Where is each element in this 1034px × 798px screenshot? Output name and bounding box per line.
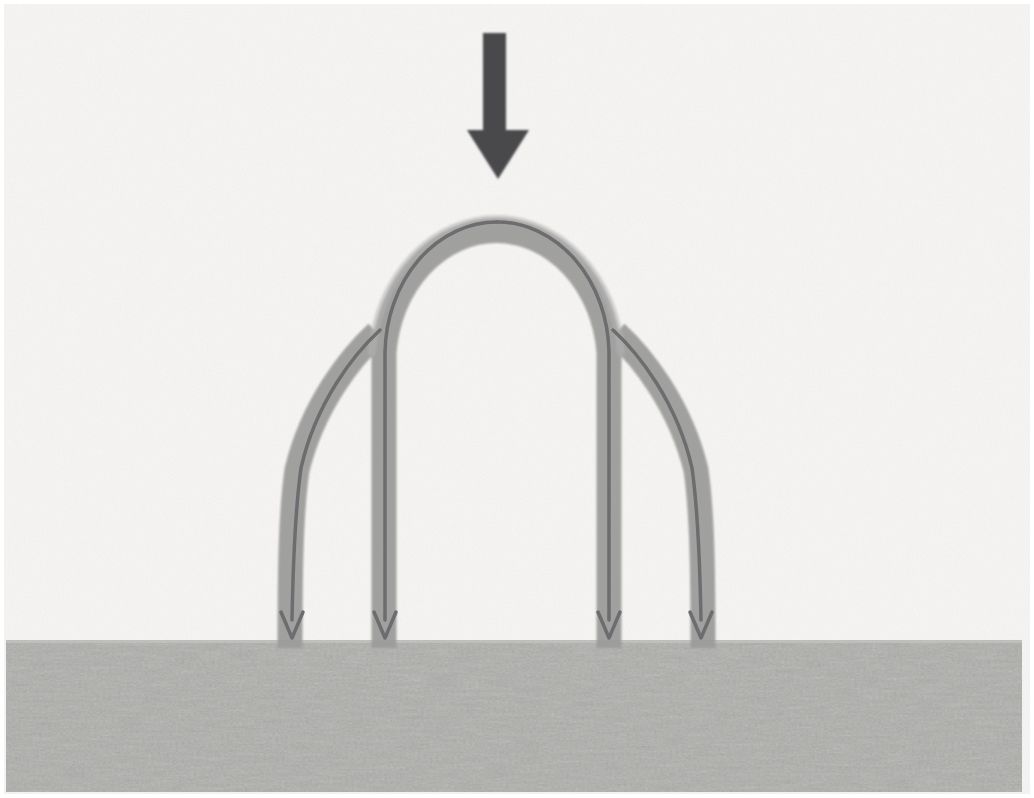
arch-force-flow-diagram xyxy=(0,0,1034,798)
print-grain-overlay xyxy=(4,4,1030,794)
figure-root xyxy=(0,0,1034,798)
